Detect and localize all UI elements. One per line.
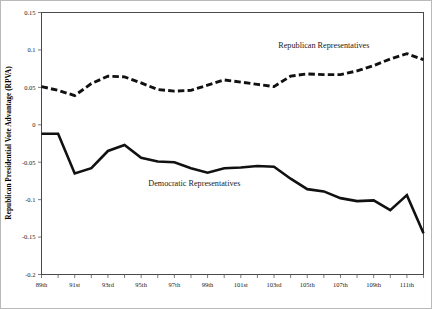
x-tick-label: 107th [333, 281, 349, 288]
series-group [42, 54, 424, 234]
y-tick-label: -0.15 [22, 233, 36, 240]
plot-frame [42, 13, 424, 275]
series-annotation-label: Republican Representatives [278, 41, 369, 50]
y-tick-label: -0.2 [25, 271, 35, 278]
x-tick-label: 109th [366, 281, 382, 288]
x-tick-label: 95th [135, 281, 147, 288]
figure-container: 0.150.10.050-0.05-0.1-0.15-0.2 89th91st9… [0, 0, 432, 309]
x-tick-label: 105th [300, 281, 316, 288]
y-tick-label: 0 [32, 121, 35, 128]
x-tick-label: 93rd [102, 281, 115, 288]
x-tick-label: 111th [400, 281, 415, 288]
y-tick-label: 0.05 [24, 84, 35, 91]
x-axis-ticks: 89th91st93rd95th97th99th101st103rd105th1… [36, 275, 424, 289]
series-line-republican [42, 54, 424, 96]
y-tick-label: 0.1 [27, 46, 35, 53]
y-axis-ticks: 0.150.10.050-0.05-0.1-0.15-0.2 [22, 9, 42, 278]
x-tick-label: 89th [36, 281, 48, 288]
y-tick-label: -0.1 [25, 196, 35, 203]
x-tick-label: 101st [234, 281, 248, 288]
y-tick-label: 0.15 [24, 9, 35, 16]
x-tick-label: 103rd [266, 281, 282, 288]
line-chart: 0.150.10.050-0.05-0.1-0.15-0.2 89th91st9… [0, 0, 432, 309]
series-annotation-label: Democratic Representatives [148, 179, 240, 188]
x-tick-label: 97th [169, 281, 181, 288]
x-tick-label: 91st [69, 281, 80, 288]
y-axis-title: Republican Presidential Vote Advantage (… [4, 66, 13, 220]
x-tick-label: 99th [202, 281, 214, 288]
y-tick-label: -0.05 [22, 159, 36, 166]
